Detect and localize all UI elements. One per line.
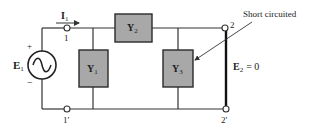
terminal-2-prime — [223, 106, 229, 112]
output-voltage-label: E2= 0 — [233, 61, 259, 74]
ac-source-icon — [28, 51, 56, 79]
two-port-circuit-diagram: + − E1 I1 1 1′ 2 2′ Y1 Y2 Y3 Short circu… — [0, 0, 319, 138]
terminal-2-label: 2 — [230, 20, 235, 30]
source-minus-sign: − — [27, 77, 33, 88]
source-plus-sign: + — [27, 41, 32, 51]
current-label: I1 — [61, 10, 69, 23]
terminal-1 — [64, 25, 70, 31]
source-label: E1 — [13, 59, 24, 73]
terminal-2-prime-label: 2′ — [221, 115, 228, 125]
terminal-1-prime-label: 1′ — [63, 115, 70, 125]
terminal-1-label: 1 — [64, 33, 69, 43]
terminal-1-prime — [64, 106, 70, 112]
short-circuited-annotation: Short circuited — [243, 9, 297, 19]
terminal-2 — [222, 25, 228, 31]
